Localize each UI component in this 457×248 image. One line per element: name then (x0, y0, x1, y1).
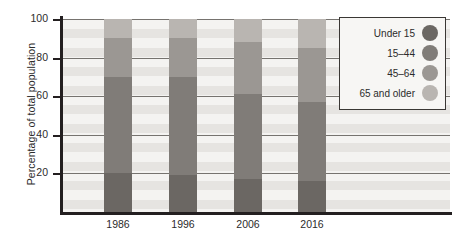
bar-segment (234, 94, 262, 179)
y-tick-mark (53, 173, 61, 175)
bar-segment (298, 19, 326, 48)
bar-segment (169, 38, 197, 77)
y-tick-mark (53, 19, 61, 21)
x-axis-line (60, 212, 452, 215)
legend-item-label: 15–44 (387, 48, 415, 59)
legend-color-swatch (422, 25, 438, 41)
y-axis-title: Percentage of total population (25, 9, 37, 219)
bar-segment (104, 173, 132, 212)
y-tick-mark (53, 135, 61, 137)
legend-item-label: 45–64 (387, 68, 415, 79)
bar-segment (234, 19, 262, 42)
bar-segment (169, 77, 197, 175)
legend-item-label: 65 and older (359, 88, 415, 99)
x-tick-label: 2006 (218, 218, 278, 230)
legend-color-swatch (422, 85, 438, 101)
y-tick-mark (53, 96, 61, 98)
bar-segment (169, 175, 197, 212)
bar-segment (298, 48, 326, 102)
legend-item: 15–44 (346, 43, 438, 63)
stacked-bar-chart: Percentage of total population 100806040… (0, 0, 457, 248)
bar-segment (234, 179, 262, 212)
bar-segment (169, 19, 197, 38)
bar-column (298, 19, 326, 212)
bar-segment (298, 181, 326, 212)
legend-item: 45–64 (346, 63, 438, 83)
y-tick-mark (53, 58, 61, 60)
y-tick-label: 40 (8, 128, 48, 140)
x-tick-label: 2016 (282, 218, 342, 230)
legend-color-swatch (422, 45, 438, 61)
legend: Under 1515–4445–6465 and older (339, 17, 446, 110)
y-tick-label: 20 (8, 166, 48, 178)
legend-item-label: Under 15 (374, 28, 415, 39)
bar-segment (104, 77, 132, 174)
bar-column (169, 19, 197, 212)
legend-item: Under 15 (346, 23, 438, 43)
y-axis-line (60, 16, 63, 215)
y-tick-label: 100 (8, 12, 48, 24)
bar-segment (298, 102, 326, 181)
bar-segment (234, 42, 262, 94)
bar-segment (104, 19, 132, 38)
bar-segment (104, 38, 132, 77)
x-tick-label: 1996 (153, 218, 213, 230)
legend-item: 65 and older (346, 83, 438, 103)
y-tick-label: 60 (8, 89, 48, 101)
x-tick-label: 1986 (88, 218, 148, 230)
bar-column (104, 19, 132, 212)
bar-column (234, 19, 262, 212)
y-tick-label: 80 (8, 51, 48, 63)
legend-color-swatch (422, 65, 438, 81)
